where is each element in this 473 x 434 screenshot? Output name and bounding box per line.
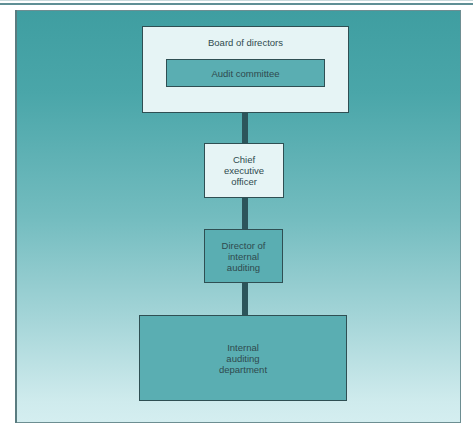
node-director-of-internal-auditing: Director of internal auditing	[204, 229, 283, 283]
node-label: Audit committee	[211, 68, 279, 79]
node-audit-committee: Audit committee	[166, 59, 325, 87]
node-label: Chief executive officer	[224, 154, 264, 187]
node-internal-auditing-department: Internal auditing department	[139, 315, 347, 401]
connector-ceo-director	[242, 198, 248, 229]
page-top-rule-thin	[0, 0, 473, 1]
connector-board-ceo	[242, 113, 248, 143]
frame-left-edge	[15, 10, 17, 423]
node-label: Internal auditing department	[219, 342, 267, 375]
node-label: Board of directors	[208, 37, 283, 48]
page-top-rule	[0, 3, 473, 5]
node-label: Director of internal auditing	[222, 240, 266, 273]
connector-director-department	[242, 283, 248, 315]
node-chief-executive-officer: Chief executive officer	[204, 143, 284, 198]
